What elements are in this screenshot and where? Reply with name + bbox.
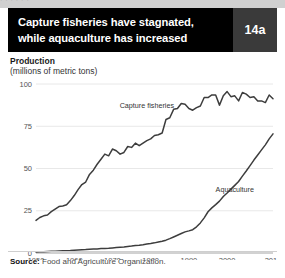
- figure-card: Capture fisheries have stagnated, while …: [8, 8, 277, 270]
- source-text: Food and Agriculture Organization.: [40, 257, 166, 266]
- source-label: Source:: [10, 257, 40, 266]
- chart-plot-area: 0255075100 1950196019701980199020002012 …: [8, 68, 277, 260]
- figure-title: Capture fisheries have stagnated, while …: [18, 14, 233, 46]
- figure-header: Capture fisheries have stagnated, while …: [8, 8, 277, 52]
- line-chart-svg: 0255075100 1950196019701980199020002012 …: [8, 68, 277, 260]
- x-tick-label-2012: 2012: [265, 256, 277, 260]
- chart-card-page: · · · · · · Capture fisheries have stagn…: [0, 0, 285, 278]
- top-strip-ghost-text: · · · · · ·: [0, 0, 29, 4]
- figure-title-line-1: Capture fisheries have stagnated,: [18, 14, 233, 30]
- figure-title-line-2: while aquaculture has increased: [18, 30, 233, 46]
- y-tick-label-50: 50: [24, 164, 32, 173]
- x-tick-label-2000: 2000: [219, 256, 236, 260]
- y-tick-label-100: 100: [19, 80, 32, 89]
- y-tick-labels-group: 0255075100: [19, 80, 32, 258]
- footer-divider: [8, 251, 277, 252]
- figure-number-panel: 14a: [233, 8, 277, 52]
- series-lines-group: [36, 92, 273, 252]
- source-note: Source: Food and Agriculture Organizatio…: [10, 257, 166, 266]
- y-tick-label-25: 25: [24, 206, 32, 215]
- series-inline-labels-group: Capture fisheriesAquaculture: [120, 101, 254, 195]
- figure-number-badge: 14a: [233, 8, 277, 52]
- series-line-capture-fisheries: [36, 92, 273, 221]
- y-tick-label-75: 75: [24, 122, 32, 131]
- x-tick-label-1990: 1990: [181, 256, 198, 260]
- series-label-capture-fisheries: Capture fisheries: [120, 101, 175, 110]
- series-label-aquaculture: Aquaculture: [216, 185, 254, 194]
- page-top-strip: · · · · · ·: [0, 0, 285, 8]
- y-axis-title: Production: [10, 56, 55, 66]
